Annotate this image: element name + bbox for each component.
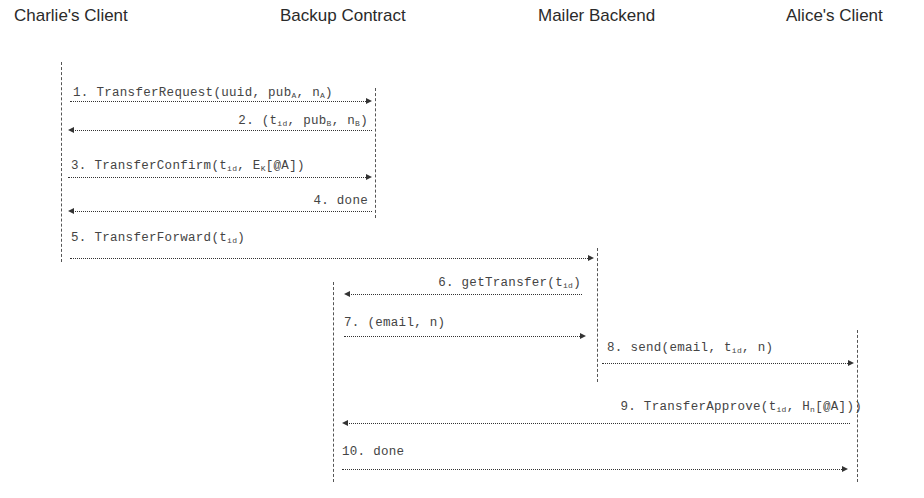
- message-2-label: 2. (tid, pubB, nB): [238, 114, 368, 128]
- message-1-label: 1. TransferRequest(uuid, pubA, nA): [73, 86, 333, 100]
- actor-charlies-client: Charlie's Client: [14, 6, 128, 26]
- message-3-arrow: [68, 177, 370, 178]
- message-10-label: 10. done: [342, 445, 404, 459]
- message-1-arrow: [70, 101, 370, 102]
- lifeline-backup-upper: [375, 88, 376, 218]
- message-4-label: 4. done: [313, 194, 368, 208]
- message-9-label: 9. TransferApprove(tid, Hn[@A])): [620, 400, 862, 414]
- lifeline-backup-lower: [333, 282, 334, 482]
- message-6-label: 6. getTransfer(tid): [438, 276, 581, 290]
- message-2-arrow: [70, 130, 372, 131]
- lifeline-charlie: [61, 62, 62, 262]
- message-10-arrow: [342, 469, 846, 470]
- message-3-label: 3. TransferConfirm(tid, EK[@A]): [71, 159, 305, 173]
- message-8-arrow: [602, 363, 852, 364]
- message-9-arrow: [344, 423, 850, 424]
- lifeline-mailer: [597, 248, 598, 382]
- message-5-arrow: [70, 258, 592, 259]
- actor-backup-contract: Backup Contract: [280, 6, 406, 26]
- actor-alices-client: Alice's Client: [786, 6, 883, 26]
- actor-mailer-backend: Mailer Backend: [538, 6, 655, 26]
- message-5-label: 5. TransferForward(tid): [71, 231, 245, 245]
- message-4-arrow: [70, 211, 372, 212]
- message-8-label: 8. send(email, tid, n): [607, 341, 773, 355]
- message-7-arrow: [344, 336, 584, 337]
- message-6-arrow: [346, 294, 582, 295]
- message-7-label: 7. (email, n): [344, 316, 445, 330]
